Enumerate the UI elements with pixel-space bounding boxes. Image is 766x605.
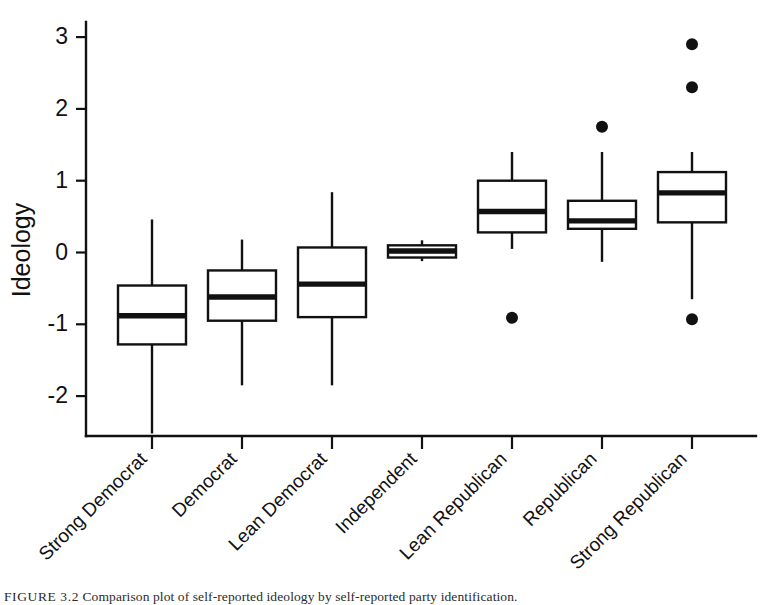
- box-plot-series: [118, 38, 726, 433]
- figure-caption-body: Comparison plot of self-reported ideolog…: [83, 589, 518, 604]
- y-tick-label: -2: [48, 382, 68, 408]
- box-plot-item: [298, 192, 366, 385]
- figure-caption-label: FIGURE 3.2: [4, 589, 79, 604]
- outlier-point: [596, 121, 608, 133]
- box-plot-item: [388, 240, 456, 261]
- x-axis-ticks: Strong DemocratDemocratLean DemocratInde…: [34, 436, 692, 573]
- box-plot-item: [118, 219, 186, 433]
- outlier-point: [506, 312, 518, 324]
- x-tick-label: Republican: [519, 448, 601, 530]
- outlier-point: [686, 38, 698, 50]
- y-tick-label: 3: [55, 23, 68, 49]
- outlier-point: [686, 81, 698, 93]
- x-tick-label: Lean Democrat: [224, 447, 331, 554]
- box-iqr: [568, 201, 636, 229]
- y-tick-label: 2: [55, 95, 68, 121]
- box-iqr: [478, 181, 546, 233]
- box-plot-item: [208, 240, 276, 386]
- x-tick-label: Democrat: [168, 447, 242, 521]
- y-tick-label: 1: [55, 167, 68, 193]
- x-tick-label: Independent: [331, 447, 421, 537]
- outlier-point: [686, 313, 698, 325]
- y-axis-title: Ideology: [7, 202, 35, 297]
- y-tick-label: -1: [48, 310, 68, 336]
- box-plot-item: [658, 38, 726, 325]
- y-tick-label: 0: [55, 239, 68, 265]
- x-tick-label: Strong Democrat: [34, 447, 151, 564]
- y-axis-ticks: 3210-1-2: [48, 23, 86, 408]
- axes: [86, 22, 756, 436]
- box-iqr: [658, 172, 726, 222]
- box-plot-item: [568, 121, 636, 262]
- figure-caption: FIGURE 3.2 Comparison plot of self-repor…: [4, 589, 518, 605]
- box-plot-item: [478, 152, 546, 324]
